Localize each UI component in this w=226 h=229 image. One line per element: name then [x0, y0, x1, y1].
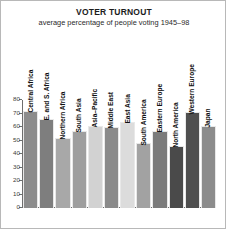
- y-axis-tick-label: 70: [4, 110, 20, 116]
- y-axis-tick-label: 40: [4, 150, 20, 156]
- bar: [23, 111, 38, 208]
- bar-group: Northern Africa: [55, 39, 70, 208]
- bar: [120, 122, 135, 208]
- y-axis-tick-label: 60: [4, 123, 20, 129]
- bar-category-label: South Asia: [76, 99, 83, 133]
- y-axis-tick-label: 20: [4, 177, 20, 183]
- chart-subtitle: average percentage of people voting 1945…: [1, 18, 226, 27]
- bar-category-label: East Asia: [124, 94, 131, 123]
- bar-category-label: E. and S. Africa: [43, 73, 50, 121]
- bar-category-label: South America: [140, 99, 147, 145]
- bar-group: Central Africa: [23, 39, 38, 208]
- bar: [185, 112, 200, 208]
- y-axis-tick-label: 50: [4, 137, 20, 143]
- bar-category-label: Middle East: [108, 92, 115, 129]
- bar-group: East Asia: [120, 39, 135, 208]
- bar: [169, 146, 184, 208]
- chart-figure: VOTER TURNOUT average percentage of peop…: [0, 0, 226, 229]
- bar: [88, 126, 103, 208]
- bar-category-label: Asia–Pacific: [92, 89, 99, 128]
- bar: [152, 131, 167, 208]
- bar-group: North America: [169, 39, 184, 208]
- bar-group: Middle East: [104, 39, 119, 208]
- chart-title: VOTER TURNOUT: [1, 7, 226, 17]
- y-axis-tick-label: 10: [4, 191, 20, 197]
- bar-group: Japan: [201, 39, 216, 208]
- bar-category-label: Eastern Europe: [157, 84, 164, 133]
- bar-category-label: North America: [173, 103, 180, 148]
- bar-category-label: Central Africa: [27, 70, 34, 113]
- bar: [104, 127, 119, 208]
- bar-group: Eastern Europe: [152, 39, 167, 208]
- y-axis-tick-label: 0: [4, 204, 20, 210]
- bar-category-label: Western Europe: [189, 64, 196, 114]
- y-axis-tick-label: 30: [4, 164, 20, 170]
- bar-group: E. and S. Africa: [39, 39, 54, 208]
- bar: [39, 119, 54, 208]
- bar-category-label: Northern Africa: [60, 92, 67, 140]
- bar-series: Central AfricaE. and S. AfricaNorthern A…: [23, 39, 216, 208]
- y-axis-tick-label: 80: [4, 96, 20, 102]
- bar-group: South Asia: [72, 39, 87, 208]
- plot-area: 01020304050607080 Central AfricaE. and S…: [22, 38, 216, 208]
- bar: [201, 126, 216, 208]
- bar: [55, 138, 70, 208]
- bar: [72, 131, 87, 208]
- bar-group: South America: [136, 39, 151, 208]
- bar-group: Western Europe: [185, 39, 200, 208]
- bar: [136, 143, 151, 208]
- bar-group: Asia–Pacific: [88, 39, 103, 208]
